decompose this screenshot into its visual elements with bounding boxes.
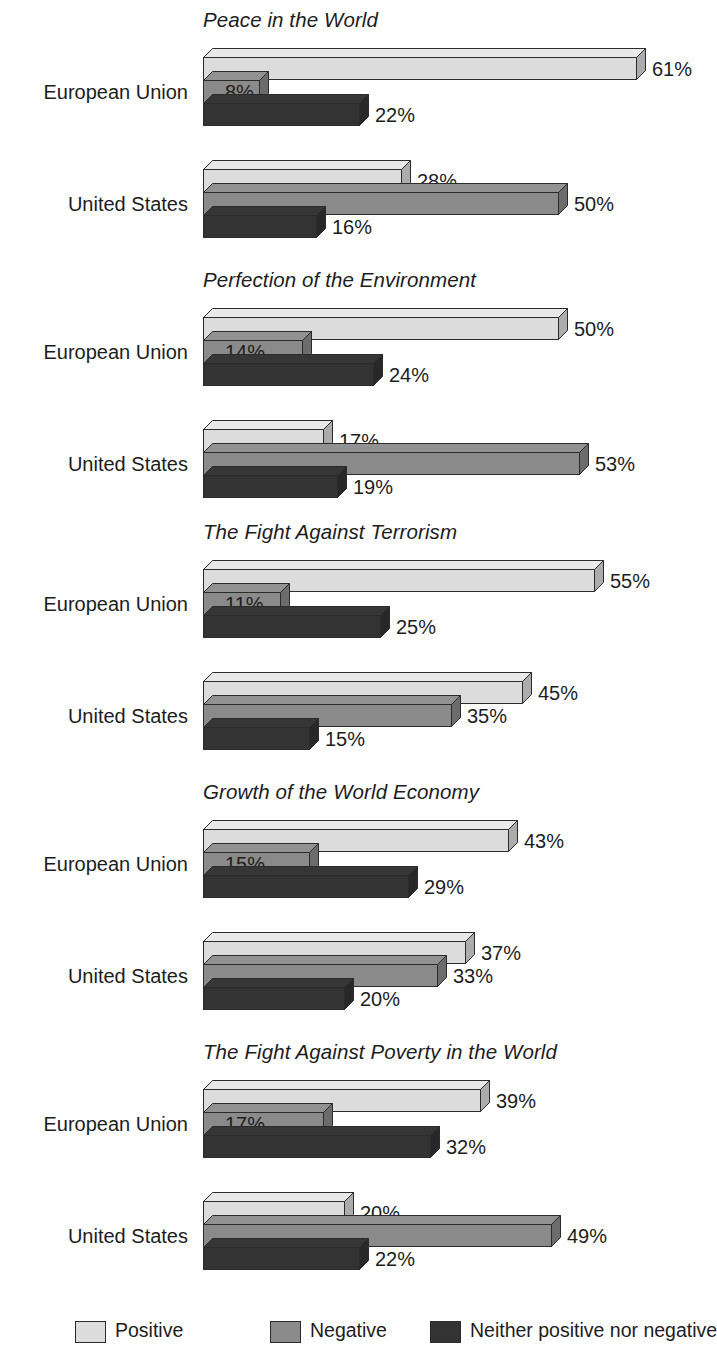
bar-value-label: 53% bbox=[595, 453, 635, 476]
bar-value-label: 50% bbox=[574, 318, 614, 341]
bar-value-label: 22% bbox=[375, 1248, 415, 1271]
chart-row: United States37%33%20% bbox=[0, 932, 694, 1014]
bar-value-label: 33% bbox=[453, 965, 493, 988]
chart-row: European Union55%11%25% bbox=[0, 560, 694, 642]
category-label: United States bbox=[0, 965, 188, 988]
bar-segment bbox=[203, 466, 347, 498]
legend-label: Positive bbox=[115, 1319, 183, 1342]
bar-value-label: 37% bbox=[481, 942, 521, 965]
legend-swatch-icon bbox=[430, 1321, 461, 1343]
chart-panel: Perfection of the EnvironmentEuropean Un… bbox=[0, 268, 694, 518]
bar-value-label: 35% bbox=[467, 705, 507, 728]
chart-row: United States28%50%16% bbox=[0, 160, 694, 242]
legend-swatch-icon bbox=[75, 1321, 106, 1343]
bar-segment bbox=[203, 1238, 369, 1270]
bar-value-label: 43% bbox=[524, 830, 564, 853]
category-label: United States bbox=[0, 193, 188, 216]
chart-legend: PositiveNegativeNeither positive nor neg… bbox=[0, 1318, 694, 1352]
bar-segment bbox=[203, 978, 354, 1010]
chart-row: United States20%49%22% bbox=[0, 1192, 694, 1274]
category-label: European Union bbox=[0, 593, 188, 616]
bar-value-label: 15% bbox=[325, 728, 365, 751]
panel-title: Perfection of the Environment bbox=[203, 268, 476, 292]
bar-segment bbox=[203, 1126, 440, 1158]
category-label: European Union bbox=[0, 853, 188, 876]
bar-segment bbox=[203, 866, 418, 898]
panel-title: Peace in the World bbox=[203, 8, 378, 32]
category-label: United States bbox=[0, 705, 188, 728]
bar-value-label: 25% bbox=[396, 616, 436, 639]
bar-value-label: 55% bbox=[610, 570, 650, 593]
bar-value-label: 29% bbox=[424, 876, 464, 899]
bar-value-label: 39% bbox=[496, 1090, 536, 1113]
bar-value-label: 32% bbox=[446, 1136, 486, 1159]
bar-value-label: 61% bbox=[652, 58, 692, 81]
legend-label: Negative bbox=[310, 1319, 387, 1342]
bar-value-label: 50% bbox=[574, 193, 614, 216]
panel-title: Growth of the World Economy bbox=[203, 780, 479, 804]
panel-title: The Fight Against Terrorism bbox=[203, 520, 457, 544]
bar-value-label: 19% bbox=[353, 476, 393, 499]
chart-row: European Union50%14%24% bbox=[0, 308, 694, 390]
chart-panel: The Fight Against Poverty in the WorldEu… bbox=[0, 1040, 694, 1290]
chart-row: United States45%35%15% bbox=[0, 672, 694, 754]
chart-row: European Union61%8%22% bbox=[0, 48, 694, 130]
category-label: European Union bbox=[0, 1113, 188, 1136]
category-label: European Union bbox=[0, 81, 188, 104]
bar-segment bbox=[203, 94, 369, 126]
category-label: European Union bbox=[0, 341, 188, 364]
legend-swatch-icon bbox=[270, 1321, 301, 1343]
chart-row: United States17%53%19% bbox=[0, 420, 694, 502]
chart-panel: Peace in the WorldEuropean Union61%8%22%… bbox=[0, 8, 694, 258]
chart-row: European Union39%17%32% bbox=[0, 1080, 694, 1162]
bar-segment bbox=[203, 354, 383, 386]
bar-value-label: 45% bbox=[538, 682, 578, 705]
chart-panel: The Fight Against TerrorismEuropean Unio… bbox=[0, 520, 694, 770]
bar-value-label: 20% bbox=[360, 988, 400, 1011]
chart-row: European Union43%15%29% bbox=[0, 820, 694, 902]
panel-title: The Fight Against Poverty in the World bbox=[203, 1040, 557, 1064]
bar-value-label: 16% bbox=[332, 216, 372, 239]
bar-value-label: 22% bbox=[375, 104, 415, 127]
category-label: United States bbox=[0, 453, 188, 476]
legend-label: Neither positive nor negative bbox=[470, 1319, 717, 1342]
bar-value-label: 49% bbox=[567, 1225, 607, 1248]
bar-segment bbox=[203, 206, 326, 238]
bar-segment bbox=[203, 606, 390, 638]
bar-segment bbox=[203, 718, 319, 750]
category-label: United States bbox=[0, 1225, 188, 1248]
bar-value-label: 24% bbox=[389, 364, 429, 387]
chart-panel: Growth of the World EconomyEuropean Unio… bbox=[0, 780, 694, 1030]
